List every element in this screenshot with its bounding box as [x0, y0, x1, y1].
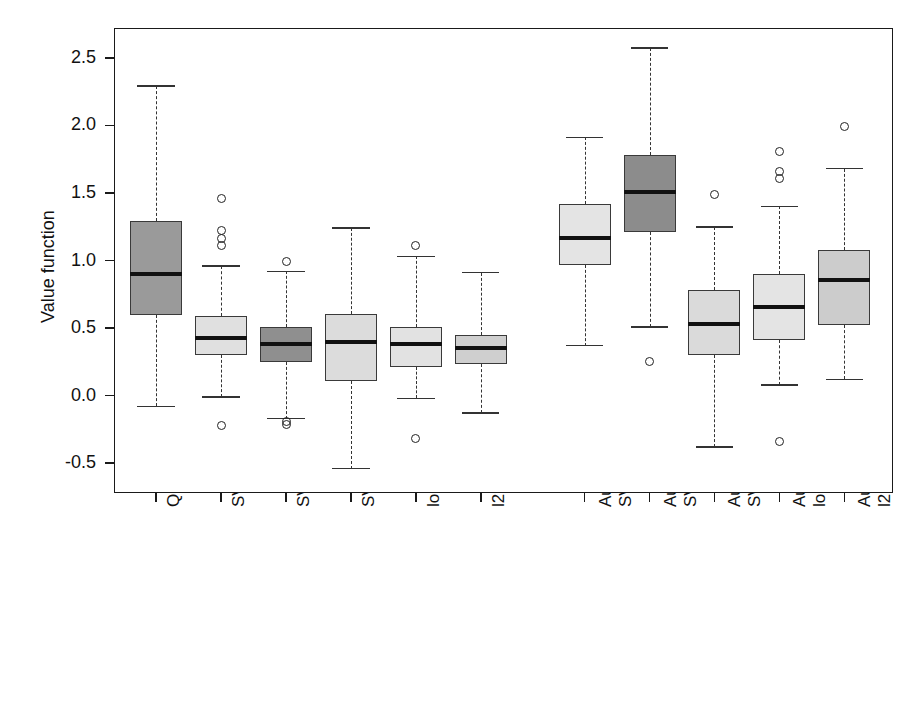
- box-iqr: [818, 250, 870, 326]
- whisker-cap-upper: [696, 226, 733, 228]
- whisker-cap-lower: [137, 406, 174, 408]
- outlier-point: [217, 241, 226, 250]
- whisker-upper-line: [156, 86, 157, 221]
- whisker-cap-lower: [761, 384, 798, 386]
- median-line: [559, 236, 611, 240]
- whisker-cap-upper: [332, 227, 369, 229]
- outlier-point: [282, 420, 291, 429]
- y-tick-mark: [105, 395, 114, 397]
- whisker-cap-lower: [696, 446, 733, 448]
- y-tick-label: -0.5: [38, 452, 96, 473]
- x-tick-mark: [649, 493, 651, 502]
- x-tick-mark: [584, 493, 586, 502]
- whisker-cap-lower: [332, 468, 369, 470]
- whisker-cap-upper: [397, 256, 434, 258]
- median-line: [753, 305, 805, 309]
- y-tick-mark: [105, 192, 114, 194]
- outlier-point: [775, 147, 784, 156]
- whisker-lower-line: [585, 265, 586, 346]
- x-tick-mark: [220, 493, 222, 502]
- whisker-lower-line: [481, 364, 482, 413]
- whisker-lower-line: [779, 340, 780, 385]
- whisker-lower-line: [351, 381, 352, 469]
- outlier-point: [217, 421, 226, 430]
- whisker-upper-line: [416, 256, 417, 326]
- whisker-cap-upper: [566, 137, 603, 139]
- outlier-point: [282, 257, 291, 266]
- y-tick-label: 0.0: [38, 385, 96, 406]
- whisker-lower-line: [714, 355, 715, 447]
- outlier-point: [840, 122, 849, 131]
- x-tick-mark: [350, 493, 352, 502]
- x-tick-mark: [714, 493, 716, 502]
- box-iqr: [390, 327, 442, 368]
- outlier-point: [217, 194, 226, 203]
- whisker-lower-line: [221, 355, 222, 397]
- whisker-lower-line: [650, 232, 651, 327]
- y-tick-mark: [105, 57, 114, 59]
- whisker-lower-line: [156, 315, 157, 407]
- box-iqr: [130, 221, 182, 314]
- x-tick-mark: [415, 493, 417, 502]
- x-tick-mark: [285, 493, 287, 502]
- whisker-cap-lower: [202, 396, 239, 398]
- median-line: [325, 340, 377, 344]
- whisker-cap-upper: [137, 85, 174, 87]
- y-tick-label: 1.5: [38, 182, 96, 203]
- whisker-cap-upper: [462, 272, 499, 274]
- whisker-cap-upper: [826, 168, 863, 170]
- whisker-cap-lower: [826, 379, 863, 381]
- y-tick-mark: [105, 462, 114, 464]
- box-iqr: [624, 155, 676, 232]
- median-line: [390, 342, 442, 346]
- y-tick-label: 2.0: [38, 114, 96, 135]
- boxplot-figure: Value function -0.50.00.51.01.52.02.5 Ql…: [0, 0, 914, 722]
- x-tick-mark: [779, 493, 781, 502]
- y-tick-label: 1.0: [38, 250, 96, 271]
- box-iqr: [559, 204, 611, 265]
- plot-area: [114, 28, 893, 493]
- median-line: [455, 346, 507, 350]
- whisker-lower-line: [844, 325, 845, 379]
- median-line: [130, 272, 182, 276]
- whisker-upper-line: [286, 271, 287, 326]
- y-tick-mark: [105, 327, 114, 329]
- whisker-upper-line: [714, 227, 715, 291]
- whisker-cap-lower: [462, 412, 499, 414]
- whisker-cap-lower: [566, 345, 603, 347]
- outlier-point: [775, 437, 784, 446]
- x-tick-mark: [844, 493, 846, 502]
- median-line: [260, 342, 312, 346]
- whisker-cap-upper: [761, 206, 798, 208]
- whisker-upper-line: [844, 169, 845, 250]
- whisker-cap-lower: [631, 326, 668, 328]
- whisker-cap-upper: [631, 47, 668, 49]
- x-tick-mark: [155, 493, 157, 502]
- whisker-upper-line: [650, 48, 651, 155]
- whisker-upper-line: [481, 273, 482, 335]
- y-tick-label: 0.5: [38, 317, 96, 338]
- whisker-cap-upper: [267, 271, 304, 273]
- whisker-upper-line: [221, 266, 222, 316]
- y-tick-label: 2.5: [38, 47, 96, 68]
- outlier-point: [775, 174, 784, 183]
- y-tick-mark: [105, 125, 114, 127]
- whisker-upper-line: [779, 206, 780, 274]
- whisker-cap-upper: [202, 265, 239, 267]
- median-line: [195, 336, 247, 340]
- whisker-lower-line: [416, 367, 417, 398]
- box-iqr: [325, 314, 377, 381]
- whisker-upper-line: [585, 137, 586, 203]
- whisker-upper-line: [351, 228, 352, 314]
- whisker-cap-lower: [397, 398, 434, 400]
- outlier-point: [710, 190, 719, 199]
- x-tick-mark: [480, 493, 482, 502]
- whisker-lower-line: [286, 362, 287, 419]
- median-line: [624, 190, 676, 194]
- median-line: [688, 322, 740, 326]
- y-tick-mark: [105, 260, 114, 262]
- median-line: [818, 278, 870, 282]
